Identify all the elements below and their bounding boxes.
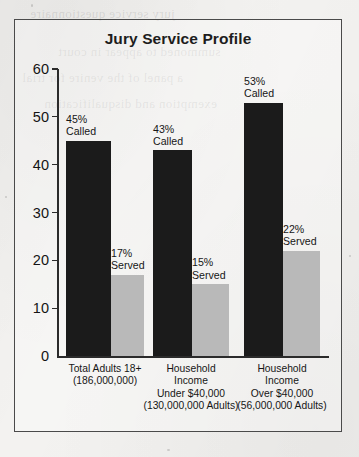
y-axis-label-40: 40: [33, 157, 49, 173]
y-axis-label-60: 60: [33, 61, 49, 77]
bar-called-income-under-40k: 43% Called: [153, 150, 192, 356]
bar-value-status: Served: [283, 235, 317, 247]
bar-value-percent: 17%: [111, 247, 145, 259]
bar-value-label: 22% Served: [283, 223, 317, 248]
bar-value-label: 43% Called: [153, 123, 183, 148]
chart-frame: Jury Service Profile 60 50 40 30 20 10 0…: [14, 19, 342, 432]
y-axis-tick: [52, 164, 59, 165]
category-line: Under $40,000: [139, 388, 243, 400]
bar-value-percent: 45%: [66, 113, 96, 125]
category-line: Over $40,000: [230, 388, 334, 400]
category-label-income-over-40k: Household Income Over $40,000 (56,000,00…: [230, 363, 334, 412]
scan-speck: [5, 196, 7, 198]
bar-value-percent: 22%: [283, 223, 317, 235]
bar-called-income-over-40k: 53% Called: [244, 103, 283, 357]
category-label-income-under-40k: Household Income Under $40,000 (130,000,…: [139, 363, 243, 412]
bar-value-label: 45% Called: [66, 113, 96, 138]
bar-served-total-adults: 17% Served: [111, 275, 144, 356]
category-line: (130,000,000 Adults): [139, 400, 243, 412]
bar-value-status: Called: [66, 125, 96, 137]
bar-value-status: Called: [153, 135, 183, 147]
y-axis-tick: [52, 212, 59, 213]
bar-value-label: 53% Called: [244, 75, 274, 100]
bar-value-status: Served: [192, 269, 226, 281]
y-axis-tick: [52, 260, 59, 261]
y-axis-label-30: 30: [33, 205, 49, 221]
category-line: Household: [139, 363, 243, 375]
scan-speck: [349, 255, 351, 257]
y-axis-tick: [52, 68, 59, 69]
bar-value-status: Called: [244, 87, 274, 99]
y-axis-label-10: 10: [33, 300, 49, 316]
category-line: Income: [230, 375, 334, 387]
bar-value-label: 17% Served: [111, 247, 145, 272]
bar-value-percent: 53%: [244, 75, 274, 87]
scan-speck: [31, 4, 33, 7]
y-axis-label-50: 50: [33, 109, 49, 125]
category-line: Household: [230, 363, 334, 375]
y-axis-label-0: 0: [41, 348, 49, 364]
bar-value-percent: 43%: [153, 123, 183, 135]
y-axis-tick: [52, 308, 59, 309]
category-line: Income: [139, 375, 243, 387]
bar-called-total-adults: 45% Called: [66, 141, 111, 356]
chart-title: Jury Service Profile: [15, 30, 341, 48]
plot-area: 60 50 40 30 20 10 0 45% Called 17% Serve…: [58, 69, 330, 356]
y-axis-tick: [52, 116, 59, 117]
scan-speck: [167, 449, 170, 451]
y-axis-label-20: 20: [33, 252, 49, 268]
bar-served-income-under-40k: 15% Served: [192, 284, 229, 356]
bar-value-label: 15% Served: [192, 256, 226, 281]
category-line: (56,000,000 Adults): [230, 400, 334, 412]
bar-value-status: Served: [111, 259, 145, 271]
x-axis-line: [57, 356, 329, 358]
bar-value-percent: 15%: [192, 256, 226, 268]
bar-served-income-over-40k: 22% Served: [283, 251, 320, 356]
